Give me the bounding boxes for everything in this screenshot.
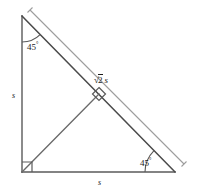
angle-bottom-right-degree-symbol: ° xyxy=(149,157,151,163)
label-hypotenuse-length: √2s xyxy=(94,76,108,85)
label-leg-horizontal: s xyxy=(98,179,101,187)
altitude-segment xyxy=(22,94,99,172)
angle-top-degree-symbol: ° xyxy=(36,41,38,47)
label-leg-vertical: s xyxy=(12,92,15,100)
angle-bottom-right-value: 45 xyxy=(140,158,149,168)
hypotenuse-variable: s xyxy=(103,75,108,85)
geometry-figure: s s √2s 45° 45° xyxy=(0,0,201,192)
label-angle-bottom-right: 45° xyxy=(140,157,151,168)
label-angle-top: 45° xyxy=(27,41,38,52)
diagram-canvas xyxy=(0,0,201,192)
angle-top-value: 45 xyxy=(27,42,36,52)
